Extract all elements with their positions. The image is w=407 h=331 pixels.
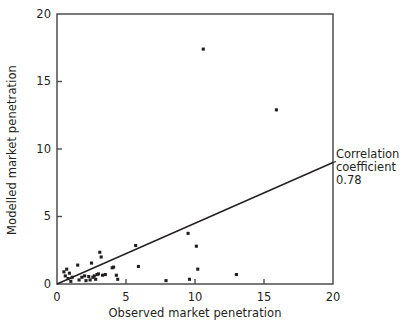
- data-point: [115, 274, 118, 277]
- data-point: [64, 274, 67, 277]
- x-tick-label: 20: [320, 290, 346, 304]
- data-point: [104, 273, 107, 276]
- data-point: [275, 108, 278, 111]
- y-tick-label: 15: [29, 74, 51, 88]
- data-point: [71, 276, 74, 279]
- data-point: [195, 245, 198, 248]
- trend-line: [57, 163, 333, 285]
- y-tick-label: 0: [29, 277, 51, 291]
- scatter-chart: Modelled market penetration Observed mar…: [0, 0, 407, 331]
- data-point: [116, 278, 119, 281]
- data-point: [69, 280, 72, 283]
- data-point: [97, 272, 100, 275]
- data-point: [84, 279, 87, 282]
- data-point: [137, 265, 140, 268]
- data-point: [90, 262, 93, 265]
- data-point: [98, 251, 101, 254]
- data-point: [93, 274, 96, 277]
- data-point: [164, 279, 167, 282]
- plot-frame: [57, 14, 333, 284]
- data-point: [80, 276, 83, 279]
- data-point: [134, 244, 137, 247]
- data-point: [187, 232, 190, 235]
- data-point: [188, 278, 191, 281]
- y-tick-label: 20: [29, 7, 51, 21]
- data-point: [62, 270, 65, 273]
- x-tick-label: 10: [182, 290, 208, 304]
- data-point: [112, 266, 115, 269]
- data-point: [68, 272, 71, 275]
- y-tick-label: 10: [29, 142, 51, 156]
- data-point: [101, 274, 104, 277]
- data-point: [196, 268, 199, 271]
- data-point: [76, 264, 79, 267]
- data-point: [202, 48, 205, 51]
- data-point: [83, 274, 86, 277]
- x-tick-label: 5: [113, 290, 139, 304]
- plot-area: [0, 0, 407, 331]
- data-point: [65, 268, 68, 271]
- data-points: [62, 48, 278, 283]
- axis-box: [57, 14, 333, 284]
- axis-ticks: [57, 82, 264, 285]
- x-tick-label: 15: [251, 290, 277, 304]
- x-tick-label: 0: [44, 290, 70, 304]
- data-point: [94, 278, 97, 281]
- data-point: [78, 278, 81, 281]
- data-point: [89, 278, 92, 281]
- data-point: [87, 275, 90, 278]
- data-point: [66, 277, 69, 280]
- y-tick-label: 5: [29, 209, 51, 223]
- data-point: [100, 255, 103, 258]
- data-point: [235, 273, 238, 276]
- regression-line: [57, 163, 333, 285]
